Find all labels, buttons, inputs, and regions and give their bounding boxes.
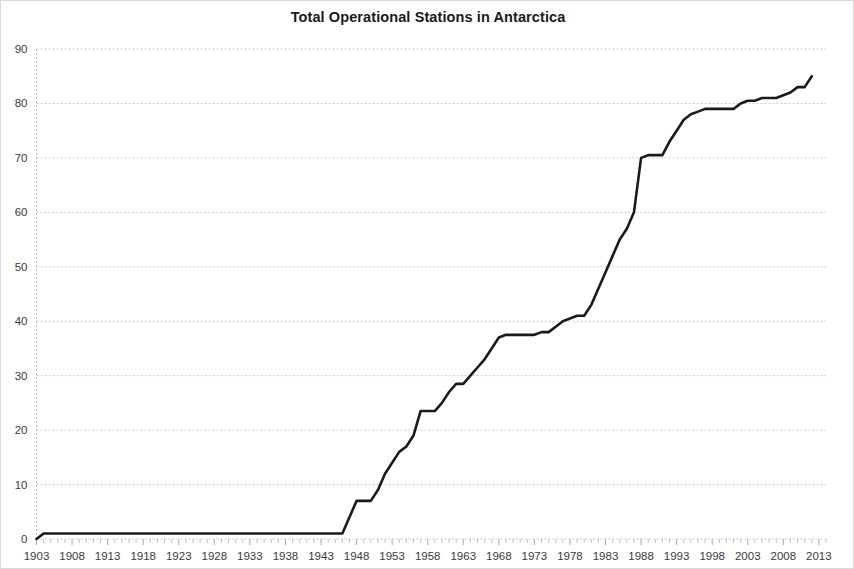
y-axis-tick-labels: 0102030405060708090: [15, 43, 28, 545]
y-axis-tick-label: 10: [15, 479, 28, 491]
y-axis-tick-label: 60: [15, 206, 28, 218]
y-axis-tick-label: 40: [15, 315, 28, 327]
x-axis-tick-label: 2003: [735, 550, 761, 562]
x-axis-tick-label: 1973: [522, 550, 548, 562]
x-axis-tick-label: 1923: [166, 550, 192, 562]
x-axis-tick-label: 1953: [379, 550, 405, 562]
gridlines: [37, 49, 827, 539]
x-axis-tick-label: 1983: [593, 550, 619, 562]
y-axis-tick-label: 90: [15, 43, 28, 55]
line-chart-plot: 0102030405060708090 19031908191319181923…: [1, 1, 854, 569]
x-axis-tick-label: 1948: [344, 550, 370, 562]
x-axis-tick-label: 1963: [450, 550, 476, 562]
x-axis-tick-label: 1993: [664, 550, 690, 562]
x-axis-tick-label: 1943: [308, 550, 334, 562]
x-axis-tick-label: 1928: [202, 550, 228, 562]
y-axis-tick-label: 30: [15, 370, 28, 382]
x-axis-tick-label: 1958: [415, 550, 441, 562]
x-axis-tick-label: 1938: [273, 550, 299, 562]
y-axis-tick-label: 0: [21, 533, 27, 545]
y-axis-tick-label: 80: [15, 97, 28, 109]
x-axis-tick-label: 1998: [699, 550, 725, 562]
x-axis-tick-label: 1988: [628, 550, 654, 562]
y-axis-tick-label: 50: [15, 261, 28, 273]
x-axis-tick-label: 2013: [806, 550, 832, 562]
x-axis-tick-label: 2008: [771, 550, 797, 562]
x-axis-tick-label: 1968: [486, 550, 512, 562]
axis-ticks: [37, 539, 827, 545]
x-axis-tick-label: 1933: [237, 550, 263, 562]
y-axis-tick-label: 20: [15, 424, 28, 436]
y-axis-tick-label: 70: [15, 152, 28, 164]
x-axis-tick-label: 1918: [130, 550, 156, 562]
x-axis-tick-label: 1908: [59, 550, 85, 562]
data-series-line: [37, 76, 812, 539]
x-axis-tick-label: 1978: [557, 550, 583, 562]
x-axis-tick-label: 1903: [24, 550, 50, 562]
x-axis-tick-labels: 1903190819131918192319281933193819431948…: [24, 550, 832, 562]
chart-container: Total Operational Stations in Antarctica…: [0, 0, 854, 569]
x-axis-tick-label: 1913: [95, 550, 121, 562]
